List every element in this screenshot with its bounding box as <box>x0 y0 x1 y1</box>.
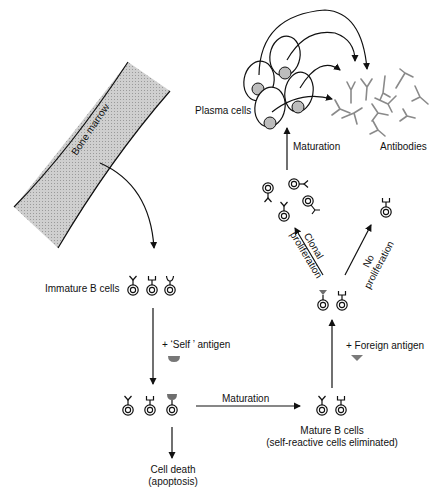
clonal-cells-icons <box>263 179 320 221</box>
cell-death-line1: Cell death <box>148 464 197 476</box>
maturation-horizontal-label: Maturation <box>222 393 269 405</box>
bone-marrow-shape <box>14 62 170 248</box>
mature-b-cells-line2: (self-reactive cells eliminated) <box>266 437 398 449</box>
cell-death-line2: (apoptosis) <box>148 476 197 488</box>
antibodies-icons <box>332 69 428 136</box>
immature-b-cells-label: Immature B cells <box>45 283 119 295</box>
mature-b-cells-icons <box>317 396 346 415</box>
mature-b-cells-line1: Mature B cells <box>266 425 398 437</box>
mature-b-cells-label: Mature B cells (self-reactive cells elim… <box>266 425 398 449</box>
non-proliferating-cell-icon <box>381 198 391 217</box>
plasma-cells-label: Plasma cells <box>195 105 251 117</box>
antibodies-label: Antibodies <box>380 141 427 153</box>
foreign-antigen-label: + Foreign antigen <box>346 340 424 352</box>
self-antigen-icon <box>168 356 180 362</box>
b-cell-diagram: Bone marrow Immature B cells + ‘Self ’ a… <box>0 0 443 496</box>
cell-death-label: Cell death (apoptosis) <box>148 464 197 488</box>
self-antigen-bound-cells-icons <box>123 394 177 415</box>
self-antigen-label: + ‘Self ’ antigen <box>162 339 230 351</box>
maturation-vertical-label: Maturation <box>293 141 340 153</box>
foreign-antigen-icon <box>351 355 363 361</box>
arrow-bone-to-immature <box>100 163 154 248</box>
foreign-antigen-bound-cells-icons <box>318 290 347 310</box>
immature-b-cells-icons <box>128 276 175 295</box>
